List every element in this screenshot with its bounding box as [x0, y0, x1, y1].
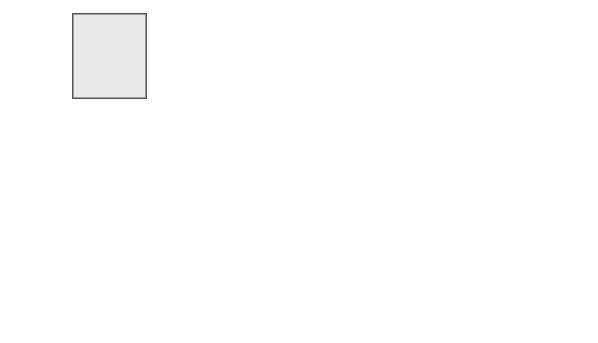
carnivore-diagram [0, 0, 598, 343]
isp-band-top [73, 14, 146, 98]
